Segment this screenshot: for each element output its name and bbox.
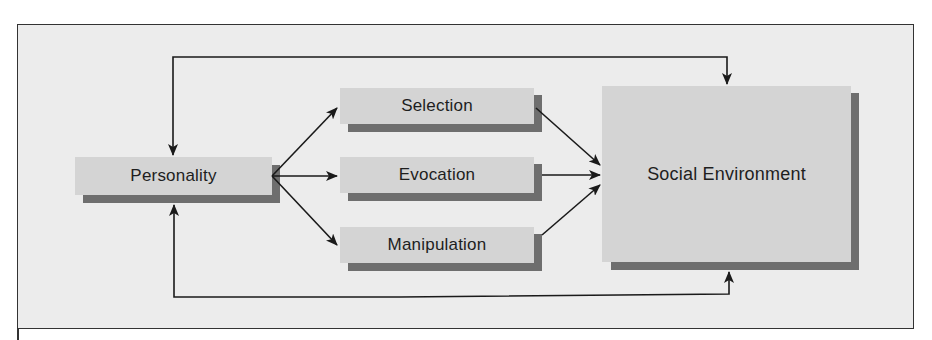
selection-label: Selection bbox=[401, 96, 473, 116]
personality-box: Personality bbox=[75, 157, 272, 195]
manipulation-label: Manipulation bbox=[388, 235, 487, 255]
selection-box: Selection bbox=[340, 88, 534, 124]
manipulation-box: Manipulation bbox=[340, 227, 534, 263]
evocation-box: Evocation bbox=[340, 157, 534, 193]
frame-edge bbox=[17, 328, 19, 340]
social-environment-label: Social Environment bbox=[647, 164, 806, 185]
personality-label: Personality bbox=[130, 166, 216, 186]
social-environment-box: Social Environment bbox=[602, 86, 851, 262]
evocation-label: Evocation bbox=[399, 165, 475, 185]
